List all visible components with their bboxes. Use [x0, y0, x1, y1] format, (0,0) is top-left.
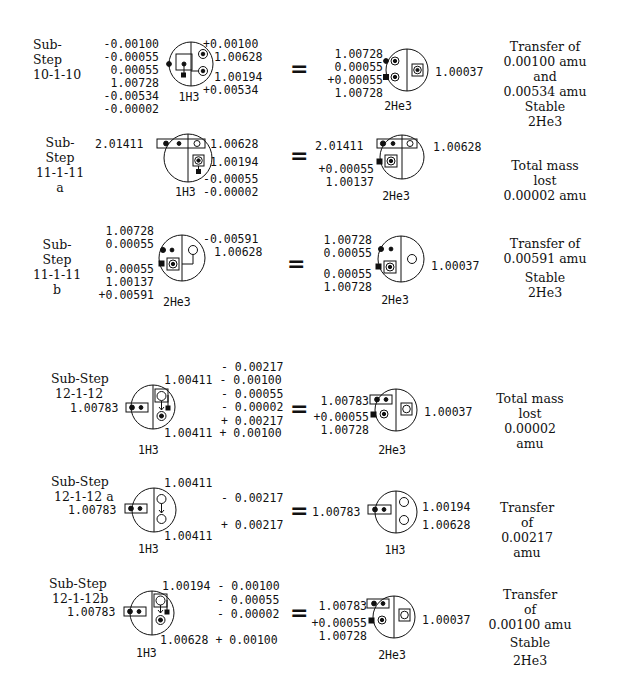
- value: 1.00783: [67, 606, 115, 619]
- isotope-label: 2He3: [380, 294, 410, 307]
- desc-line: of: [480, 602, 580, 617]
- isotope-label: 1H3: [174, 91, 204, 104]
- value: 1.00783: [305, 395, 369, 408]
- value: 1.00037: [435, 66, 483, 79]
- desc-line: Stable: [490, 99, 600, 114]
- value: - 0.00217: [221, 492, 283, 505]
- desc-line: Transfer of: [490, 39, 600, 54]
- value: 1.00194: [422, 501, 470, 514]
- isotope-label: 2He3: [163, 296, 191, 309]
- left-values: 0.00055 1.00728: [310, 268, 372, 294]
- isotope-label: 2He3: [377, 444, 407, 457]
- value: 0.00055: [88, 238, 154, 251]
- value: 1.00411: [164, 477, 212, 490]
- substep-title: Sub- Step 11-1-11 a: [30, 135, 90, 195]
- desc-line: 0.00217: [487, 530, 567, 545]
- isotope-label: 1H3: [136, 647, 157, 660]
- left-values: 1.00783 +0.00055 1.00728: [305, 395, 369, 437]
- value: 1.00037: [424, 406, 472, 419]
- value: +0.00591: [88, 289, 154, 302]
- value: - 0.00002: [217, 608, 279, 621]
- value: 1.00783: [303, 600, 367, 613]
- nucleus-diagram-2he3: [368, 387, 420, 435]
- left-values: -0.00100 -0.00055 0.00055 1.00728 -0.005…: [95, 38, 159, 116]
- title-line: Sub-: [27, 237, 87, 252]
- isotope-label: 2He3: [383, 100, 413, 113]
- left-values: 1.00728 0.00055: [310, 234, 372, 260]
- value: -0.00002: [95, 103, 159, 116]
- title-line: Step: [27, 252, 87, 267]
- isotope-label: 1H3: [138, 543, 159, 556]
- isotope-label: 2He3: [381, 190, 411, 203]
- isotope-label: 1H3: [175, 186, 196, 199]
- value: +0.00534: [203, 84, 262, 97]
- value: 0.00055: [310, 247, 372, 260]
- nucleus-diagram-2he3: [382, 46, 432, 96]
- nucleus-diagram-2he3: [374, 233, 426, 285]
- value: 1.00783: [312, 506, 360, 519]
- desc-line: 2He3: [480, 653, 580, 668]
- value: 2.01411: [95, 138, 143, 151]
- nucleus-diagram-2he3: [367, 595, 419, 643]
- value: 1.00194 - 0.00100: [162, 580, 280, 593]
- title-line: 10-1-10: [33, 67, 81, 82]
- title-line: Sub-Step: [49, 576, 107, 591]
- value: 1.00037: [422, 614, 470, 627]
- value: 1.00628: [210, 138, 258, 151]
- right-values: -0.00591 1.00628: [203, 233, 262, 259]
- value: 1.00728: [303, 630, 367, 643]
- title-line: 12-1-12b: [52, 591, 108, 606]
- value: 1.00137: [306, 176, 374, 189]
- value: 1.00728: [305, 424, 369, 437]
- desc-line: lost: [495, 173, 595, 188]
- value: 1.00411 - 0.00100: [164, 374, 282, 387]
- isotope-label: 1H3: [380, 544, 410, 557]
- desc-line: 0.00591 amu: [495, 251, 595, 266]
- desc-line: 0.00002 amu: [495, 188, 595, 203]
- desc-line: 2He3: [490, 114, 600, 129]
- left-values: 0.00055 1.00137 +0.00591: [88, 263, 154, 302]
- desc-line: 0.00100 amu: [480, 617, 580, 632]
- desc-line: Transfer: [480, 587, 580, 602]
- description: Transfer of 0.00100 amu Stable 2He3: [480, 587, 580, 668]
- title-line: Sub-: [33, 37, 81, 52]
- desc-line: Stable: [480, 635, 580, 650]
- value: - 0.00055: [217, 594, 279, 607]
- description: Transfer of 0.00591 amu Stable 2He3: [495, 236, 595, 300]
- desc-line: 0.00534 amu: [490, 84, 600, 99]
- description: Transfer of 0.00100 amu and 0.00534 amu …: [490, 39, 600, 129]
- left-values: 1.00728 0.00055 +0.00055 1.00728: [315, 48, 383, 100]
- desc-line: Total mass: [480, 391, 580, 406]
- title-line: 11-1-11: [30, 165, 90, 180]
- title-line: Sub-: [30, 135, 90, 150]
- description: Transfer of 0.00217 amu: [487, 500, 567, 560]
- title-line: Step: [33, 52, 81, 67]
- value: 1.00783: [68, 504, 116, 517]
- value: + 0.00217: [221, 519, 283, 532]
- desc-line: lost: [480, 406, 580, 421]
- desc-line: 2He3: [495, 285, 595, 300]
- description: Total mass lost 0.00002 amu: [495, 158, 595, 203]
- substep-title: Sub- Step 10-1-10: [33, 37, 81, 82]
- title-line: Sub-Step: [51, 474, 109, 489]
- title-line: a: [30, 180, 90, 195]
- desc-line: 0.00100 amu: [490, 54, 600, 69]
- title-line: 12-1-12 a: [54, 489, 114, 504]
- value: 1.00194: [210, 156, 258, 169]
- value: 1.00037: [431, 260, 479, 273]
- title-line: Step: [30, 150, 90, 165]
- value: 1.00628: [433, 141, 481, 154]
- value: 1.00411: [164, 530, 212, 543]
- desc-line: 0.00002: [480, 421, 580, 436]
- equals-sign: =: [290, 61, 308, 77]
- right-values: 1.00194 +0.00534: [203, 71, 262, 97]
- equals-sign: =: [290, 148, 308, 164]
- value: 1.00628: [203, 246, 262, 259]
- left-values: +0.00055 1.00137: [306, 163, 374, 189]
- substep-title: Sub- Step 11-1-11 b: [27, 237, 87, 297]
- value: 1.00628: [422, 519, 470, 532]
- description: Total mass lost 0.00002 amu: [480, 391, 580, 451]
- title-line: 12-1-12: [55, 386, 103, 401]
- desc-line: Stable: [495, 270, 595, 285]
- value: 1.00783: [70, 402, 118, 415]
